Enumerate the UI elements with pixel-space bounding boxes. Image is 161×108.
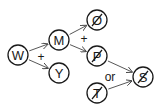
node-label: Y bbox=[55, 66, 64, 81]
node-label: M bbox=[54, 33, 65, 48]
node-y: Y bbox=[49, 63, 69, 83]
plus-label: + bbox=[37, 50, 44, 64]
node-t: T bbox=[87, 83, 107, 103]
node-o: O bbox=[87, 10, 107, 30]
or-label: or bbox=[105, 70, 116, 84]
plus-label: + bbox=[80, 32, 87, 46]
node-s: S bbox=[133, 67, 153, 87]
node-p: P bbox=[87, 46, 107, 66]
nodes: WMYOPTS bbox=[8, 10, 153, 103]
node-label: W bbox=[12, 48, 25, 63]
node-w: W bbox=[8, 45, 28, 65]
reaction-diagram: WMYOPTS ++or bbox=[0, 0, 161, 108]
node-m: M bbox=[49, 30, 69, 50]
